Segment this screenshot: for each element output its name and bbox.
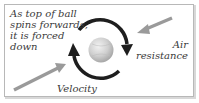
caption-line: down (10, 41, 88, 52)
caption-line: spins forwards, (10, 19, 88, 30)
velocity-label: Velocity (57, 83, 97, 94)
caption-line: it is forced (10, 30, 88, 41)
air-resistance-arrow-icon (137, 18, 172, 34)
ball-icon (89, 38, 114, 63)
spin-explanation-caption: As top of ball spins forwards, it is for… (10, 8, 88, 52)
air-resistance-line: resistance (136, 50, 188, 61)
air-resistance-line: Air (136, 39, 188, 50)
caption-line: As top of ball (10, 8, 88, 19)
air-resistance-label: Air resistance (136, 39, 188, 61)
